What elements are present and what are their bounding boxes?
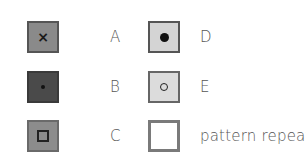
cross-icon: × xyxy=(37,30,49,44)
legend-item-c: C xyxy=(27,120,121,152)
legend-item-d: D xyxy=(148,21,212,53)
swatch-c xyxy=(27,120,59,152)
legend-label-d: D xyxy=(200,28,212,46)
legend-label-a: A xyxy=(110,28,120,46)
ring-icon xyxy=(160,83,168,91)
swatch-b xyxy=(27,71,59,103)
legend-label-c: C xyxy=(110,127,121,145)
swatch-d xyxy=(148,21,180,53)
small-dot-icon xyxy=(41,85,45,89)
legend-label-pattern-repeat: pattern repeat xyxy=(200,127,306,145)
legend-item-pattern-repeat: pattern repeat xyxy=(148,120,306,152)
swatch-e xyxy=(148,71,180,103)
legend-label-b: B xyxy=(110,78,120,96)
square-outline-icon xyxy=(37,130,49,142)
legend-item-b: B xyxy=(27,71,120,103)
legend-label-e: E xyxy=(200,78,210,96)
empty-square-icon xyxy=(148,120,180,152)
legend-item-a: × A xyxy=(27,21,120,53)
large-dot-icon xyxy=(160,33,169,42)
swatch-a: × xyxy=(27,21,59,53)
legend-item-e: E xyxy=(148,71,210,103)
